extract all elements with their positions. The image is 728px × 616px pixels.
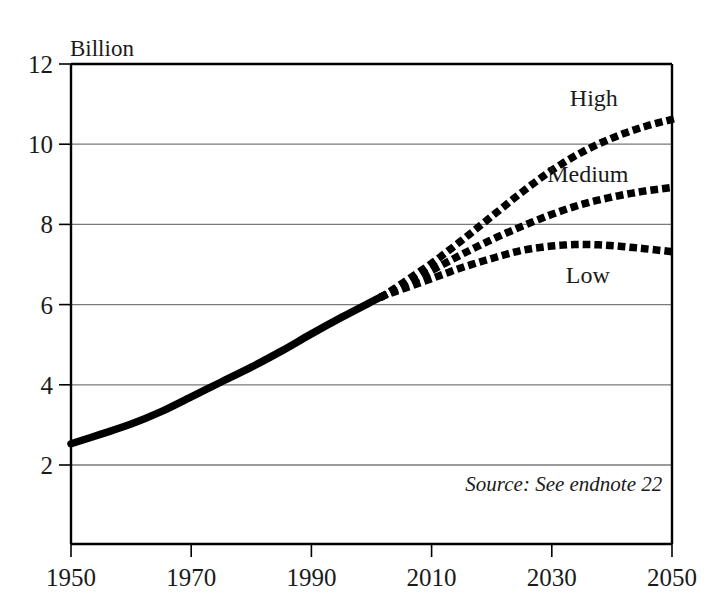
x-axis-ticks-group	[71, 544, 672, 557]
series-label-low: Low	[566, 262, 611, 288]
chart-canvas: 24681012 195019701990201020302050 HighMe…	[0, 0, 728, 616]
y-tick-label-2: 2	[41, 452, 54, 479]
y-tick-label-6: 6	[41, 292, 54, 319]
y-axis-unit-label: Billion	[70, 36, 134, 61]
x-axis-tick-labels-group: 195019701990201020302050	[46, 564, 697, 591]
x-tick-label-2050: 2050	[647, 564, 697, 591]
x-tick-label-1990: 1990	[286, 564, 336, 591]
y-tick-label-4: 4	[41, 372, 54, 399]
source-note: Source: See endnote 22	[465, 472, 662, 496]
x-tick-label-2010: 2010	[407, 564, 457, 591]
series-labels-group: HighMediumLow	[547, 85, 629, 287]
y-tick-label-8: 8	[41, 211, 54, 238]
x-tick-label-1950: 1950	[46, 564, 96, 591]
y-axis-ticks-group	[59, 64, 71, 465]
series-label-high: High	[570, 85, 618, 111]
x-tick-label-1970: 1970	[166, 564, 216, 591]
y-tick-label-10: 10	[28, 131, 53, 158]
y-axis-tick-labels-group: 24681012	[28, 51, 54, 479]
population-projection-chart: 24681012 195019701990201020302050 HighMe…	[0, 0, 728, 616]
series-label-medium: Medium	[547, 161, 629, 187]
source-annotation-group: Source: See endnote 22	[465, 472, 662, 496]
series-line-historical	[71, 296, 384, 444]
x-tick-label-2030: 2030	[527, 564, 577, 591]
y-tick-label-12: 12	[28, 51, 53, 78]
